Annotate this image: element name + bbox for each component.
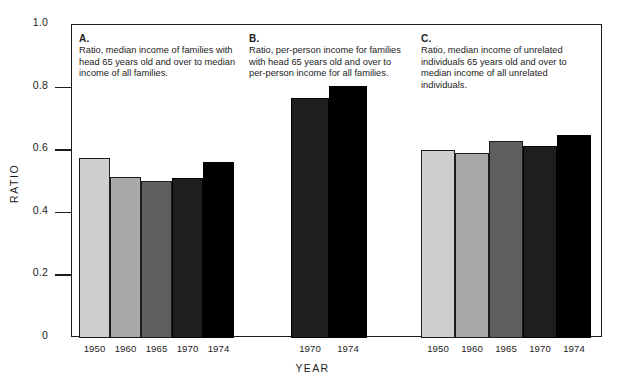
panel-b: B.Ratio, per-person income for families …	[249, 25, 409, 338]
figure-container: RATIO 1.00.80.60.40.20 A.Ratio, median i…	[0, 0, 625, 386]
plot-area: A.Ratio, median income of families with …	[71, 24, 602, 337]
y-tick-label: 0.6	[33, 141, 48, 153]
y-tick-label: 0	[42, 329, 48, 341]
bar-1970	[523, 146, 557, 338]
bar-1960	[110, 177, 141, 338]
y-axis-label: RATIO	[8, 189, 20, 203]
y-tick-label: 1.0	[33, 16, 48, 28]
y-tick-label: 0.8	[33, 79, 48, 91]
x-axis-label: YEAR	[0, 362, 625, 374]
y-tick-mark	[55, 212, 71, 214]
y-tick-mark	[55, 149, 71, 151]
bar-group: 19501960196519701974	[421, 25, 591, 338]
bar-1974	[203, 162, 234, 338]
bar-1960	[455, 153, 489, 338]
y-tick-label: 0.4	[33, 204, 48, 216]
x-tick-label-1974: 1974	[553, 343, 595, 354]
bar-1970	[291, 98, 329, 338]
bar-group: 19701974	[291, 25, 367, 338]
y-tick-mark	[55, 274, 71, 276]
bar-1974	[329, 86, 367, 338]
y-tick-mark	[55, 87, 71, 89]
bar-1950	[421, 150, 455, 338]
x-tick-label-1974: 1974	[325, 343, 371, 354]
bar-1970	[172, 178, 203, 338]
panel-a: A.Ratio, median income of families with …	[79, 25, 239, 338]
bar-1974	[557, 135, 591, 338]
x-tick-label-1974: 1974	[199, 343, 238, 354]
bar-1965	[141, 181, 172, 338]
y-tick-label: 0.2	[33, 266, 48, 278]
bar-1950	[79, 158, 110, 338]
bar-1965	[489, 141, 523, 338]
bar-group: 19501960196519701974	[79, 25, 234, 338]
panel-c: C.Ratio, median income of unrelated indi…	[421, 25, 596, 338]
